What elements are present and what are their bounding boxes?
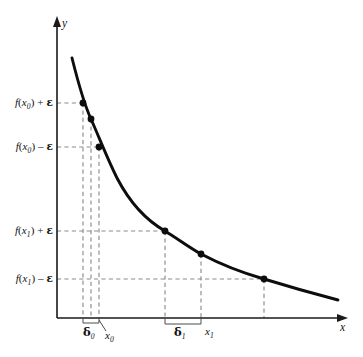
y-axis-arrowhead <box>53 16 61 27</box>
point-fx1-plus-eps <box>162 228 169 235</box>
curve-points <box>80 100 268 283</box>
y-tick-label-fx0-minus-eps: f(x0) – ε <box>0 141 53 155</box>
point-fx0 <box>88 116 95 123</box>
horizontal-guide-lines <box>57 103 267 279</box>
y-tick-label-fx0-plus-eps: f(x0) + ε <box>0 97 53 111</box>
axes <box>53 16 348 322</box>
function-curve <box>72 58 338 300</box>
x-tick-label-x1: x1 <box>205 326 214 340</box>
x-axis-label: x <box>340 322 345 334</box>
delta1-bracket-path <box>165 318 201 324</box>
point-fx0-minus-eps <box>96 144 103 151</box>
y-axis-label: y <box>62 18 67 30</box>
epsilon-delta-figure: y x f(x0) + ε f(x0) – ε f(x1) + ε f(x1) … <box>0 0 363 357</box>
figure-canvas <box>0 0 363 357</box>
point-fx0-plus-eps <box>80 100 87 107</box>
vertical-guide-lines <box>83 103 264 318</box>
y-tick-label-fx1-minus-eps: f(x1) – ε <box>0 273 53 287</box>
y-tick-label-fx1-plus-eps: f(x1) + ε <box>0 225 53 239</box>
delta1-label: δ1 <box>174 327 185 341</box>
delta1-bracket <box>165 318 201 324</box>
x-tick-label-x0: x0 <box>105 330 114 344</box>
point-fx1 <box>198 251 205 258</box>
delta0-label: δ0 <box>83 327 94 341</box>
point-fx1-minus-eps <box>261 276 268 283</box>
